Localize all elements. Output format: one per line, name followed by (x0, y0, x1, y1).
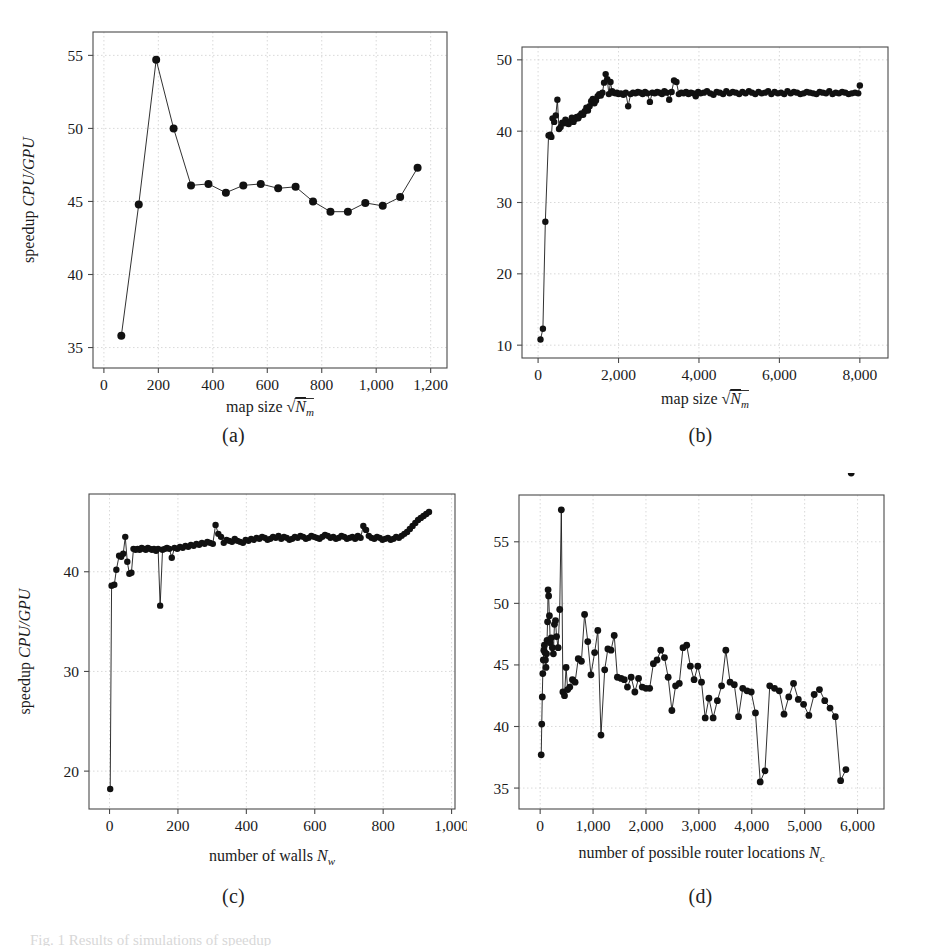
data-point-marker (546, 612, 553, 619)
data-point-marker (120, 551, 126, 557)
data-point-marker (122, 534, 128, 540)
data-point-marker (762, 767, 769, 774)
x-tick-label: 1,000 (434, 817, 467, 834)
data-point-marker (274, 184, 282, 192)
subcaption-d: (d) (467, 885, 934, 908)
tick-marks (88, 55, 431, 373)
data-point-marker (556, 606, 563, 613)
data-point-marker (591, 649, 598, 656)
x-tick-label: 1,200 (413, 376, 448, 393)
data-point-marker (326, 208, 334, 216)
data-point-marker (396, 193, 404, 201)
data-point-marker (731, 681, 738, 688)
x-tick-label: 8,000 (842, 366, 877, 383)
x-tick-label: 400 (235, 817, 259, 834)
data-point-marker (601, 666, 608, 673)
y-tick-label: 55 (494, 533, 510, 550)
plot-b: 02,0004,0006,0008,0001020304050map size … (467, 0, 934, 473)
y-tick-label: 45 (494, 656, 510, 673)
data-point-marker (135, 200, 143, 208)
data-point-marker (673, 79, 679, 85)
data-point-marker (572, 679, 579, 686)
y-tick-label: 40 (497, 123, 513, 140)
data-point-marker (553, 633, 560, 640)
data-point-marker (752, 710, 759, 717)
x-tick-label: 0 (100, 376, 108, 393)
data-point-marker (538, 721, 545, 728)
data-point-marker (611, 632, 618, 639)
data-point-marker (647, 99, 653, 105)
data-point-marker (805, 712, 812, 719)
x-tick-label: 6,000 (840, 817, 875, 834)
plot-d: 01,0002,0003,0004,0005,0006,000354045505… (467, 473, 934, 946)
subcaption-c: (c) (0, 885, 467, 908)
x-tick-label: 2,000 (601, 366, 636, 383)
data-point-marker (837, 777, 844, 784)
sqrt-symbol: √ (287, 398, 296, 415)
y-axis-title: speedup CPU/GPU (20, 136, 38, 263)
data-point-marker (210, 541, 216, 547)
data-point-marker (668, 89, 674, 95)
y-tick-label: 45 (68, 193, 84, 210)
data-point-marker (128, 570, 134, 576)
x-axis-title-text: number of walls (209, 847, 317, 864)
x-tick-label: 1,000 (359, 376, 394, 393)
y-tick-label: 55 (68, 47, 84, 64)
x-tick-label: 800 (372, 817, 396, 834)
data-point-marker (257, 180, 265, 188)
data-point-marker (594, 627, 601, 634)
subcaption-b: (b) (467, 424, 934, 447)
data-point-marker (857, 82, 863, 88)
data-point-marker (683, 642, 690, 649)
data-point-marker (212, 522, 218, 528)
y-tick-label: 40 (64, 563, 80, 580)
panel-b: 02,0004,0006,0008,0001020304050map size … (467, 0, 934, 473)
data-point-marker (117, 332, 125, 340)
data-point-marker (722, 647, 729, 654)
data-point-marker (654, 657, 661, 664)
data-point-marker (607, 79, 613, 85)
data-point-marker (757, 779, 764, 786)
data-point-marker (204, 180, 212, 188)
x-tick-label: 800 (310, 376, 334, 393)
data-point-marker (832, 713, 839, 720)
data-point-marker (665, 674, 672, 681)
data-point-marker (795, 696, 802, 703)
data-point-marker (581, 611, 588, 618)
y-tick-label: 30 (64, 663, 80, 680)
data-point-marker (668, 707, 675, 714)
data-point-marker (748, 689, 755, 696)
data-point-marker (549, 644, 556, 651)
data-points (538, 473, 855, 785)
tick-marks (517, 60, 860, 363)
x-axis-title-text: map size (226, 398, 286, 416)
data-point-marker (635, 675, 642, 682)
data-point-marker (566, 684, 573, 691)
plot-c: 02004006008001,000203040number of walls … (0, 473, 467, 946)
data-point-marker (551, 119, 557, 125)
plot-frame (519, 495, 884, 809)
y-tick-label: 30 (497, 194, 513, 211)
data-point-marker (239, 181, 247, 189)
y-tick-label: 35 (494, 780, 510, 797)
sqrt-symbol: √ (722, 390, 731, 407)
data-point-marker (785, 694, 792, 701)
y-tick-label: 50 (68, 120, 84, 137)
data-point-marker (599, 89, 605, 95)
data-point-marker (539, 694, 546, 701)
x-axis-title: number of walls Nw (209, 847, 336, 867)
data-point-marker (687, 663, 694, 670)
data-point-marker (538, 751, 545, 758)
data-point-marker (608, 647, 615, 654)
y-tick-label: 20 (497, 265, 513, 282)
data-point-marker (558, 506, 565, 513)
y-tick-label: 10 (497, 337, 513, 354)
data-point-marker (292, 183, 300, 191)
x-tick-label: 5,000 (787, 817, 822, 834)
y-axis-title-text: speedup (16, 658, 34, 714)
data-point-marker (170, 124, 178, 132)
x-axis-title-subscript: c (820, 852, 825, 864)
data-point-marker (542, 219, 548, 225)
data-point-marker (543, 664, 550, 671)
data-points (537, 71, 863, 343)
